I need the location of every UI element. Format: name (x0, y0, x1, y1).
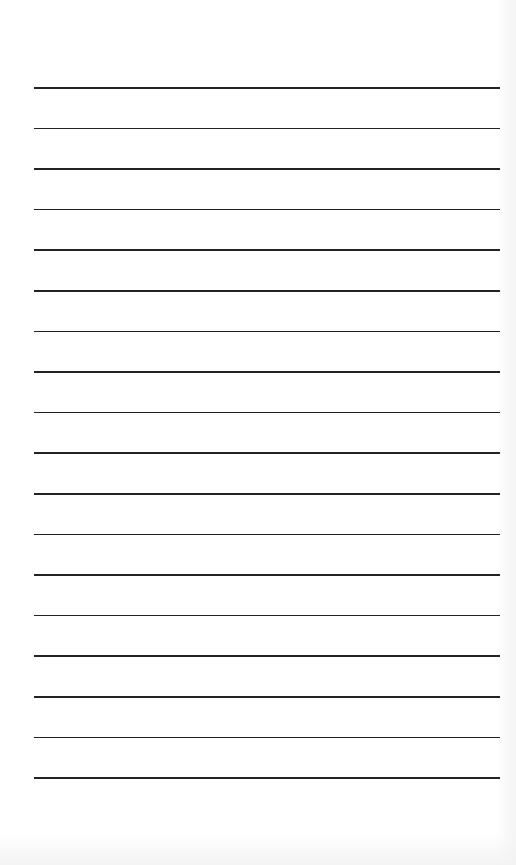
ruled-line (34, 696, 500, 698)
ruled-line (34, 493, 500, 495)
ruled-line (34, 371, 500, 373)
lined-paper-page (0, 0, 516, 865)
ruled-line (34, 168, 500, 170)
ruled-line (34, 452, 500, 454)
ruled-line (34, 290, 500, 292)
ruled-line (34, 209, 500, 211)
ruled-line (34, 128, 500, 130)
ruled-line (34, 87, 500, 89)
ruled-line (34, 249, 500, 251)
ruled-line (34, 412, 500, 414)
ruled-line (34, 777, 500, 779)
page-edge-shadow (0, 835, 516, 865)
ruled-line (34, 331, 500, 333)
ruled-line (34, 574, 500, 576)
ruled-line (34, 615, 500, 617)
ruled-line (34, 534, 500, 536)
ruled-line (34, 655, 500, 657)
ruled-line (34, 737, 500, 739)
